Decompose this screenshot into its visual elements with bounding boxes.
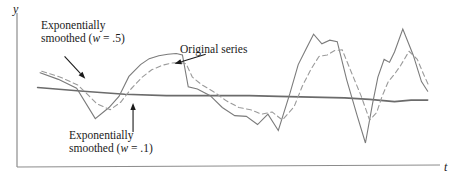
label-original-series: Original series <box>180 43 247 56</box>
label-exponentially-smoothed-w5: Exponentially smoothed (w = .5) <box>41 19 125 44</box>
label-smoothed-w1-prefix: smoothed ( <box>69 142 120 154</box>
label-smoothed-w1-line1: Exponentially <box>69 129 153 142</box>
label-original-series-text: Original series <box>180 43 247 55</box>
x-axis-label: t <box>444 160 447 175</box>
label-smoothed-w1-variable: w <box>120 142 128 154</box>
series-exponentially-smoothed-w5 <box>42 50 429 120</box>
arrow-to-smoothed-w5-series <box>65 56 86 78</box>
label-smoothed-w5-suffix: = .5) <box>100 32 125 44</box>
label-smoothed-w5-line1: Exponentially <box>41 19 125 32</box>
label-smoothed-w5-line2: smoothed (w = .5) <box>41 32 125 45</box>
label-smoothed-w5-variable: w <box>92 32 100 44</box>
label-smoothed-w1-suffix: = .1) <box>128 142 153 154</box>
arrow-to-smoothed-w1-series <box>130 103 135 132</box>
label-smoothed-w1-line2: smoothed (w = .1) <box>69 142 153 155</box>
label-smoothed-w5-prefix: smoothed ( <box>41 32 92 44</box>
arrow-to-original-series <box>175 54 206 64</box>
x-axis-line <box>17 165 440 167</box>
y-axis-label: y <box>13 2 18 17</box>
label-exponentially-smoothed-w1: Exponentially smoothed (w = .1) <box>69 129 153 154</box>
exponential-smoothing-figure: y t Exponentially smoothed (w = .5) Orig… <box>0 0 457 186</box>
series-exponentially-smoothed-w1 <box>38 88 428 102</box>
